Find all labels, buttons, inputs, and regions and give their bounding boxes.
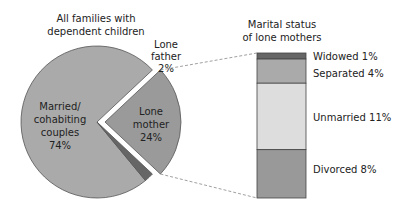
slice-label-lone-father: Lone father 2% (151, 39, 182, 74)
slice-label-line: 2% (158, 63, 174, 74)
bar-label-divorced: Divorced 8% (313, 164, 376, 175)
slice-label-line: Married/ (39, 101, 81, 112)
slice-label-line: couples (41, 127, 79, 138)
stacked-bar-chart (257, 53, 306, 198)
slice-label-line: cohabiting (34, 114, 87, 125)
bar-title-line: Marital status (248, 19, 316, 30)
bar-segment-unmarried (257, 83, 306, 149)
chart-canvas: All families with dependent children Mar… (0, 0, 407, 206)
bar-segment-separated (257, 59, 306, 83)
bar-label-separated: Separated 4% (313, 68, 384, 79)
slice-label-line: Lone (154, 39, 178, 50)
bar-title: Marital status of lone mothers (243, 19, 322, 43)
bar-label-widowed: Widowed 1% (313, 51, 378, 62)
bar-segment-widowed (257, 53, 306, 59)
slice-label-line: Lone (139, 106, 163, 117)
connector-bottom (160, 174, 257, 198)
pie-title-line: All families with (56, 13, 135, 24)
bar-label-unmarried: Unmarried 11% (313, 112, 391, 123)
slice-label-line: mother (133, 119, 170, 130)
pie-title: All families with dependent children (47, 13, 144, 37)
pie-title-line: dependent children (47, 26, 144, 37)
bar-labels: Widowed 1% Separated 4% Unmarried 11% Di… (313, 51, 391, 175)
slice-label-line: 24% (140, 132, 162, 143)
bar-title-line: of lone mothers (243, 32, 322, 43)
bar-segment-divorced (257, 150, 306, 198)
slice-label-line: 74% (49, 140, 71, 151)
slice-label-line: father (151, 51, 182, 62)
